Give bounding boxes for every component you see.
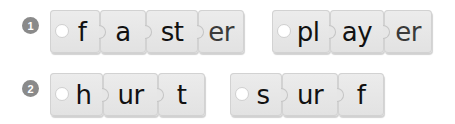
piece-label: h — [76, 80, 92, 110]
puzzle-knob-icon — [337, 88, 344, 102]
word-puzzle-faster: f a st er — [50, 10, 244, 53]
puzzle-piece[interactable]: s — [230, 73, 282, 116]
circle-hole-icon — [55, 24, 69, 38]
piece-label: er — [395, 17, 421, 47]
puzzle-piece[interactable]: t — [158, 73, 205, 116]
puzzle-piece[interactable]: ur — [103, 73, 158, 116]
exercise-number-badge: 1 — [22, 17, 39, 34]
piece-label: er — [208, 17, 234, 47]
puzzle-piece[interactable]: er — [384, 10, 432, 53]
puzzle-piece[interactable]: st — [146, 10, 198, 53]
piece-label: st — [161, 17, 184, 47]
piece-label: ur — [117, 80, 143, 110]
puzzle-knob-icon — [197, 25, 204, 39]
puzzle-knob-icon — [102, 88, 109, 102]
puzzle-knob-icon — [329, 25, 336, 39]
piece-label: s — [256, 80, 269, 110]
puzzle-piece[interactable]: ur — [282, 73, 338, 116]
piece-label: a — [115, 17, 130, 47]
circle-hole-icon — [55, 87, 69, 101]
puzzle-knob-icon — [281, 88, 288, 102]
exercise-number-badge: 2 — [22, 80, 39, 97]
circle-hole-icon — [235, 87, 249, 101]
circle-hole-icon — [277, 24, 291, 38]
puzzle-piece[interactable]: f — [50, 10, 100, 53]
piece-label: f — [78, 17, 87, 47]
piece-label: t — [177, 80, 187, 110]
piece-label: pl — [297, 17, 320, 47]
puzzle-knob-icon — [145, 25, 152, 39]
puzzle-piece[interactable]: pl — [272, 10, 330, 53]
puzzle-piece[interactable]: er — [198, 10, 244, 53]
word-puzzle-hurt: h ur t — [50, 73, 205, 116]
word-puzzle-surf: s ur f — [230, 73, 384, 116]
puzzle-knob-icon — [99, 25, 106, 39]
puzzle-piece[interactable]: ay — [330, 10, 384, 53]
puzzle-piece[interactable]: f — [338, 73, 384, 116]
puzzle-knob-icon — [383, 25, 390, 39]
piece-label: f — [357, 80, 366, 110]
piece-label: ay — [342, 17, 372, 47]
puzzle-knob-icon — [157, 88, 164, 102]
puzzle-piece[interactable]: a — [100, 10, 146, 53]
puzzle-piece[interactable]: h — [50, 73, 103, 116]
piece-label: ur — [297, 80, 323, 110]
word-puzzle-player: pl ay er — [272, 10, 432, 53]
